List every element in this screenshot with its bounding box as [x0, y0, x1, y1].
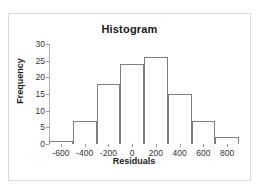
- x-axis-tick: [61, 144, 62, 147]
- y-axis-tick-label: 25: [36, 56, 45, 65]
- x-axis-tick: [156, 144, 157, 147]
- histogram-bar: [168, 94, 192, 144]
- y-axis-label: Frequency: [15, 42, 25, 120]
- y-axis-line: [49, 44, 50, 144]
- histogram-bar: [144, 57, 168, 144]
- histogram-bar: [97, 84, 121, 144]
- x-axis-tick: [132, 144, 133, 147]
- y-axis-tick-label: 30: [36, 40, 45, 49]
- x-axis-label: Residuals: [29, 156, 239, 166]
- y-axis-tick: [46, 61, 49, 62]
- y-axis-tick: [46, 144, 49, 145]
- y-axis-tick-label: 20: [36, 73, 45, 82]
- chart-title: Histogram: [9, 23, 250, 35]
- y-axis-tick-label: 0: [40, 140, 45, 149]
- y-axis-tick-label: 5: [40, 123, 45, 132]
- plot-area: 051015202530 -600-400-2000200400600800: [49, 44, 239, 144]
- histogram-bar: [73, 121, 97, 144]
- x-axis-tick: [85, 144, 86, 147]
- x-axis-tick: [108, 144, 109, 147]
- chart-frame: Histogram Frequency 051015202530 -600-40…: [8, 13, 251, 181]
- x-axis-tick: [203, 144, 204, 147]
- y-axis-tick-label: 10: [36, 106, 45, 115]
- y-axis-tick: [46, 127, 49, 128]
- histogram-bar: [192, 121, 216, 144]
- histogram-bar: [215, 137, 239, 144]
- y-axis-tick: [46, 77, 49, 78]
- y-axis-tick: [46, 111, 49, 112]
- y-axis-tick: [46, 44, 49, 45]
- x-axis-tick: [180, 144, 181, 147]
- histogram-bar: [120, 64, 144, 144]
- y-axis-tick-label: 15: [36, 90, 45, 99]
- y-axis-tick: [46, 94, 49, 95]
- x-axis-tick: [227, 144, 228, 147]
- histogram-bar: [49, 141, 73, 144]
